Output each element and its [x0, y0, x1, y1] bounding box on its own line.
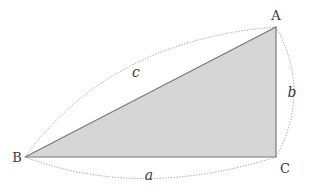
side-label-a: a: [145, 167, 153, 183]
right-triangle: [25, 27, 276, 157]
side-label-b: b: [288, 84, 297, 100]
triangle-diagram: A B C a b c: [0, 0, 310, 192]
vertex-label-a: A: [270, 8, 281, 23]
vertex-label-c: C: [280, 161, 290, 176]
triangle-svg: A B C a b c: [0, 0, 310, 192]
vertex-label-b: B: [12, 150, 22, 165]
side-label-c: c: [132, 64, 140, 80]
